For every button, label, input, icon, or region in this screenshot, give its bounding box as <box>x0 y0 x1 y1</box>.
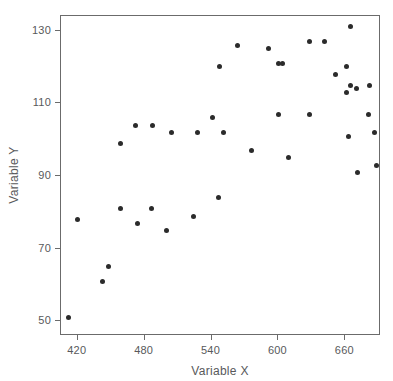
plot-area <box>60 15 380 335</box>
data-point <box>149 206 154 211</box>
data-point <box>191 214 196 219</box>
data-point <box>374 163 379 168</box>
data-point <box>118 206 123 211</box>
data-point <box>346 134 351 139</box>
y-tick-label: 70 <box>38 242 51 254</box>
data-point <box>235 43 240 48</box>
data-point <box>372 130 377 135</box>
data-point <box>150 123 155 128</box>
data-point <box>221 130 226 135</box>
data-point <box>210 115 215 120</box>
data-point <box>354 86 359 91</box>
data-point <box>348 83 353 88</box>
data-point <box>280 61 285 66</box>
y-axis-label: Variable Y <box>7 146 21 203</box>
data-point <box>118 141 123 146</box>
x-tick-label: 600 <box>268 344 287 356</box>
x-tick-mark <box>344 335 345 340</box>
y-tick-label: 90 <box>38 169 51 181</box>
scatter-plot-figure: 507090110130 420480540600660 Variable Y … <box>0 0 393 381</box>
data-point <box>307 39 312 44</box>
x-tick-label: 420 <box>67 344 86 356</box>
x-axis-label: Variable X <box>191 364 248 378</box>
data-point <box>333 72 338 77</box>
data-point <box>249 148 254 153</box>
data-point <box>106 264 111 269</box>
data-point <box>217 64 222 69</box>
data-point <box>266 46 271 51</box>
y-tick-label: 50 <box>38 314 51 326</box>
x-tick-label: 480 <box>134 344 153 356</box>
data-point <box>286 155 291 160</box>
data-point <box>133 123 138 128</box>
data-point <box>216 195 221 200</box>
x-tick-mark <box>77 335 78 340</box>
data-point <box>366 112 371 117</box>
data-point <box>355 170 360 175</box>
data-point <box>276 112 281 117</box>
data-point <box>307 112 312 117</box>
x-tick-mark <box>211 335 212 340</box>
data-point <box>367 83 372 88</box>
data-point <box>135 221 140 226</box>
data-point <box>164 228 169 233</box>
data-point <box>344 64 349 69</box>
data-point <box>344 90 349 95</box>
y-tick-label: 110 <box>33 96 51 108</box>
y-tick-label: 130 <box>32 24 51 36</box>
data-point <box>322 39 327 44</box>
data-point <box>195 130 200 135</box>
data-point <box>75 217 80 222</box>
x-tick-mark <box>144 335 145 340</box>
data-point <box>100 279 105 284</box>
data-point <box>348 24 353 29</box>
x-tick-label: 660 <box>335 344 354 356</box>
data-point <box>66 315 71 320</box>
x-tick-mark <box>277 335 278 340</box>
data-point <box>169 130 174 135</box>
x-tick-label: 540 <box>201 344 220 356</box>
